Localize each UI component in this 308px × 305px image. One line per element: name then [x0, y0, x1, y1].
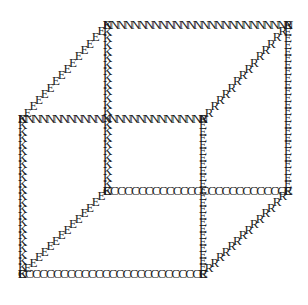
edge-glyph-r: R [284, 184, 293, 197]
edge-glyph-r: R [284, 18, 293, 31]
cube-figure-canvas: NNNNNNNNNNNNNNNNNNNNNNNNNNNNNNNNNNNNNNNN… [0, 0, 308, 305]
edge-glyph-e: E [103, 184, 111, 197]
edge-glyph-e: E [103, 18, 111, 31]
